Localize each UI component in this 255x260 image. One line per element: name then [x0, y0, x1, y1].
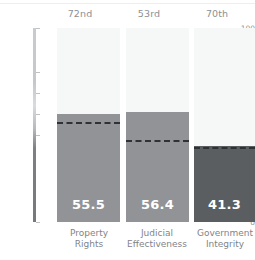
reference-line-government-integrity — [194, 147, 255, 149]
y-tick-mark-80 — [36, 72, 40, 73]
bar-chart: 72nd 53rd 70th 100 80 70 60 50 0 55.5 56… — [0, 0, 255, 260]
y-tick-mark-0 — [36, 222, 40, 223]
reference-line-judicial-effectiveness — [126, 140, 189, 142]
y-tick-mark-50 — [36, 135, 40, 136]
plot-area: 100 80 70 60 50 0 55.5 56.4 41.3 Propert… — [0, 0, 255, 260]
reference-line-property-rights — [57, 122, 120, 124]
bar-value-judicial-effectiveness: 56.4 — [126, 197, 189, 212]
bar-value-government-integrity: 41.3 — [194, 197, 255, 212]
bar-value-property-rights: 55.5 — [57, 197, 120, 212]
y-tick-mark-60 — [36, 114, 40, 115]
category-label-judicial-effectiveness: Judicial Effectiveness — [121, 228, 193, 250]
category-label-property-rights: Property Rights — [53, 228, 125, 250]
y-tick-mark-70 — [36, 93, 40, 94]
y-tick-mark-100 — [36, 28, 40, 29]
y-axis-spine — [33, 28, 36, 222]
category-label-government-integrity: Government Integrity — [189, 228, 255, 250]
